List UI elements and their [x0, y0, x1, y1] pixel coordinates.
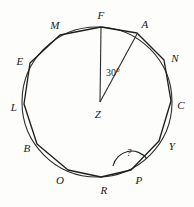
vertex-label-R: R	[101, 185, 108, 196]
vertex-label-L: L	[11, 102, 17, 113]
vertex-label-N: N	[171, 53, 179, 64]
vertex-label-C: C	[177, 100, 185, 111]
center-label-Z: Z	[95, 109, 101, 120]
vertex-label-O: O	[56, 175, 64, 186]
geometry-figure: F A N C Y P R O B L E M Z 30° ?	[0, 0, 194, 207]
figure-canvas	[0, 0, 194, 207]
vertex-label-P: P	[136, 175, 143, 186]
vertex-label-Y: Y	[169, 141, 175, 152]
central-angle-label: 30°	[106, 68, 120, 78]
vertex-label-E: E	[17, 56, 24, 67]
inscribed-polygon	[24, 27, 171, 177]
vertex-label-A: A	[142, 19, 149, 30]
vertex-label-B: B	[24, 143, 31, 154]
vertex-label-F: F	[98, 10, 105, 21]
unknown-angle-label: ?	[127, 148, 132, 158]
vertex-label-M: M	[50, 20, 59, 31]
radius-z-f-line	[100, 28, 101, 102]
